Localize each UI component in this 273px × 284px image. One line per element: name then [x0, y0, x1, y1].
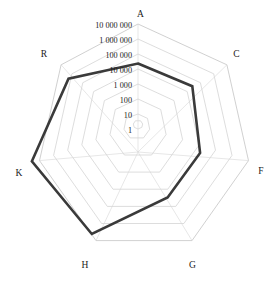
grid-ring-100000	[68, 54, 216, 206]
axis-label-r: R	[41, 49, 48, 59]
grid-ring-1000	[96, 84, 183, 172]
tick-label-1000: 1 000	[114, 81, 132, 90]
grid-ring-10000	[82, 69, 199, 189]
radar-chart: 10 000 000 1 000 000 100 000 10 000 1 00…	[0, 0, 273, 284]
tick-label-10000: 10 000	[109, 66, 132, 75]
axis-label-h: H	[82, 260, 89, 270]
axis-label-k: K	[16, 168, 23, 178]
tick-label-10000000: 10 000 000	[95, 21, 132, 30]
tick-label-1: 1	[128, 126, 132, 135]
spoke-h	[96, 152, 138, 241]
axis-label-a: A	[137, 9, 144, 19]
axis-label-c: C	[233, 49, 239, 59]
axis-label-f: F	[258, 166, 263, 176]
tick-label-100000: 100 000	[105, 51, 132, 60]
axis-labels: A C F G H K R	[16, 9, 264, 271]
spoke-g	[138, 152, 192, 241]
tick-label-10: 10	[124, 111, 132, 120]
tick-label-1000000: 1 000 000	[99, 36, 132, 45]
axis-label-g: G	[189, 260, 196, 270]
radar-chart-canvas: 10 000 000 1 000 000 100 000 10 000 1 00…	[0, 0, 273, 284]
tick-label-100: 100	[120, 96, 132, 105]
